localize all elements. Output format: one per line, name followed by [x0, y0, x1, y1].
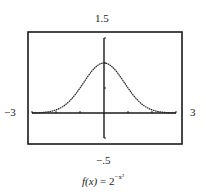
function-caption: f(x) = 2−x²: [82, 172, 124, 187]
y-max-label: 1.5: [95, 12, 109, 24]
x-max-label: 3: [190, 106, 196, 118]
caption-function-name: f(x): [82, 175, 97, 187]
caption-exponent: −x²: [114, 173, 124, 181]
y-min-label: −.5: [96, 154, 110, 166]
x-min-label: −3: [4, 106, 16, 118]
caption-equals: = 2: [97, 175, 114, 187]
